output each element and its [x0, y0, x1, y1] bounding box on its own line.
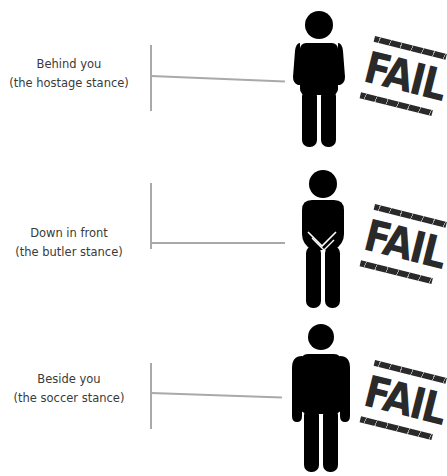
person-arms-at-sides-icon	[290, 324, 352, 472]
stance-subtitle: (the soccer stance)	[0, 389, 138, 408]
stance-row-behind: Behind you (the hostage stance) FAIL	[0, 0, 447, 160]
stance-subtitle: (the butler stance)	[0, 243, 138, 262]
person-hands-clasped-icon	[294, 162, 354, 308]
stance-label: Beside you (the soccer stance)	[0, 370, 138, 408]
stance-row-front: Down in front (the butler stance) FAIL	[0, 160, 447, 310]
bracket-line	[150, 183, 152, 249]
stance-row-beside: Beside you (the soccer stance) FAIL	[0, 310, 447, 476]
stance-label: Down in front (the butler stance)	[0, 224, 138, 262]
fail-stamp: FAIL	[357, 360, 447, 443]
stance-title: Behind you	[0, 55, 138, 74]
fail-stamp: FAIL	[357, 204, 447, 287]
connector-line	[151, 242, 285, 244]
connector-line	[151, 392, 282, 399]
stance-title: Down in front	[0, 224, 138, 243]
stance-label: Behind you (the hostage stance)	[0, 55, 138, 93]
bracket-line	[150, 363, 152, 429]
stance-title: Beside you	[0, 370, 138, 389]
bracket-line	[150, 45, 152, 111]
person-hands-behind-icon	[290, 5, 350, 147]
fail-stamp: FAIL	[357, 36, 447, 119]
stance-subtitle: (the hostage stance)	[0, 74, 138, 93]
connector-line	[151, 75, 285, 82]
